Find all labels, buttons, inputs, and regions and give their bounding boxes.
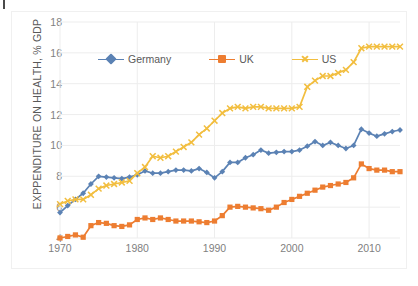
x-tick-label: 1970 (48, 242, 71, 254)
data-point-marker (389, 129, 395, 135)
legend-marker-x-icon (301, 55, 309, 63)
y-tick-label: 10 (36, 139, 62, 151)
chart-plot-wrapper: EXPPENDITURE ON HEALTH, % GDP 4681012141… (12, 12, 408, 270)
legend-label: Germany (127, 53, 171, 65)
x-tick-label: 1990 (203, 242, 226, 254)
data-point-marker (335, 143, 341, 149)
data-point-marker (173, 167, 179, 173)
series-us (57, 44, 403, 207)
data-point-marker (111, 223, 116, 228)
data-point-marker (88, 223, 93, 228)
data-point-marker (73, 232, 78, 237)
x-tick-label: 2000 (280, 242, 303, 254)
data-point-marker (142, 215, 147, 220)
data-point-marker (289, 197, 294, 202)
series-uk (57, 161, 402, 240)
data-point-marker (281, 200, 286, 205)
y-tick-label: 8 (36, 170, 62, 182)
legend-swatch-us-icon (292, 54, 318, 64)
data-point-marker (258, 206, 263, 211)
data-point-marker (196, 219, 201, 224)
data-point-marker (181, 167, 187, 173)
y-tick-label: 18 (36, 16, 62, 28)
data-point-marker (312, 188, 317, 193)
chart-page: EXPPENDITURE ON HEALTH, % GDP 4681012141… (0, 0, 418, 286)
data-point-marker (274, 205, 279, 210)
data-point-marker (382, 131, 388, 137)
legend-swatch-germany-icon (98, 54, 124, 64)
series-germany (57, 126, 403, 215)
legend-item-germany[interactable]: Germany (98, 53, 171, 65)
legend-label: UK (238, 53, 254, 65)
data-point-marker (227, 205, 232, 210)
data-point-marker (266, 208, 271, 213)
legend-item-us[interactable]: US (292, 53, 337, 65)
data-point-marker (65, 234, 70, 239)
data-point-marker (212, 218, 217, 223)
data-point-marker (351, 175, 356, 180)
data-point-marker (297, 147, 303, 153)
data-point-marker (96, 220, 101, 225)
legend-item-uk[interactable]: UK (209, 53, 254, 65)
data-point-marker (251, 205, 256, 210)
legend-marker-diamond-icon (105, 53, 116, 64)
data-point-marker (266, 150, 272, 156)
data-point-marker (158, 170, 164, 176)
data-point-marker (150, 217, 155, 222)
chart-legend: GermanyUKUS (98, 50, 336, 68)
data-point-marker (366, 166, 371, 171)
y-tick-label: 16 (36, 47, 62, 59)
data-point-marker (297, 194, 302, 199)
series-line (60, 129, 400, 212)
data-point-marker (281, 149, 287, 155)
data-point-marker (336, 181, 341, 186)
data-point-marker (397, 127, 403, 133)
data-point-marker (81, 235, 86, 240)
data-point-marker (328, 183, 333, 188)
data-point-marker (359, 161, 364, 166)
x-axis-tick-labels: 19701980199020002010 (60, 242, 400, 260)
legend-label: US (321, 53, 337, 65)
data-point-marker (235, 204, 240, 209)
data-point-marker (220, 213, 225, 218)
data-point-marker (196, 166, 202, 172)
data-point-marker (320, 143, 326, 149)
data-point-marker (119, 224, 124, 229)
data-point-marker (366, 130, 372, 136)
data-point-marker (188, 168, 194, 174)
data-point-marker (189, 218, 194, 223)
page-edge-artifact (3, 0, 5, 9)
data-point-marker (305, 191, 310, 196)
data-point-marker (135, 217, 140, 222)
data-point-marker (343, 146, 349, 152)
data-point-marker (382, 168, 387, 173)
data-point-marker (374, 168, 379, 173)
x-tick-label: 1980 (126, 242, 149, 254)
data-point-marker (397, 169, 402, 174)
x-tick-label: 2010 (357, 242, 380, 254)
data-point-marker (390, 169, 395, 174)
data-point-marker (273, 149, 279, 155)
data-point-marker (320, 184, 325, 189)
data-point-marker (150, 170, 156, 176)
legend-swatch-uk-icon (209, 54, 235, 64)
data-point-marker (111, 175, 117, 181)
data-point-marker (243, 205, 248, 210)
chart-container: EXPPENDITURE ON HEALTH, % GDP 4681012141… (11, 11, 407, 269)
data-point-marker (165, 169, 171, 175)
series-line (60, 164, 400, 238)
data-point-marker (127, 222, 132, 227)
data-point-marker (374, 133, 380, 139)
data-point-marker (351, 143, 357, 149)
y-tick-label: 12 (36, 109, 62, 121)
data-point-marker (103, 174, 109, 180)
data-point-marker (328, 139, 334, 145)
data-point-marker (343, 180, 348, 185)
legend-marker-square-icon (218, 55, 226, 63)
data-point-marker (57, 235, 62, 240)
data-point-marker (158, 215, 163, 220)
data-point-marker (173, 218, 178, 223)
data-point-marker (104, 221, 109, 226)
data-point-marker (204, 220, 209, 225)
y-tick-label: 14 (36, 78, 62, 90)
